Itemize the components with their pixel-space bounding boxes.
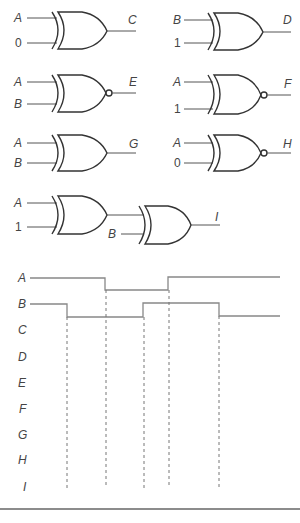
gate-g-output-label: G	[129, 137, 138, 151]
timing-diagram: A B C D E F G H I	[17, 271, 280, 494]
gate-c-output-label: C	[128, 13, 137, 27]
gate-h-output-label: H	[283, 137, 292, 151]
gate-e-xnor: A B E	[13, 75, 138, 112]
waveform-a	[30, 277, 280, 290]
gate-e-output-label: E	[129, 75, 138, 89]
timing-label-a: A	[17, 271, 26, 285]
gate-e-inversion-bubble	[106, 90, 112, 96]
timing-label-e: E	[18, 376, 27, 390]
gate-d-input-1-label: B	[173, 13, 181, 27]
gate-e-input-2-label: B	[14, 97, 22, 111]
gate-h-input-1-label: A	[172, 136, 181, 150]
timing-label-h: H	[18, 453, 27, 467]
gate-e-input-1-label: A	[13, 75, 22, 89]
gate-g-input-1-label: A	[13, 136, 22, 150]
gate-f-output-label: F	[284, 77, 292, 91]
gate-h-input-2-label: 0	[174, 156, 181, 170]
gate-i-output-label: I	[215, 210, 219, 224]
gate-c-input-2-label: 0	[15, 36, 22, 50]
gate-i-input-3-label: B	[108, 227, 116, 241]
gate-c-input-1-label: A	[13, 11, 22, 25]
gate-c-xor: A 0 C	[13, 11, 137, 50]
timing-label-b: B	[18, 297, 26, 311]
gate-f-xnor: A 1 F	[172, 75, 292, 116]
gate-d-output-label: D	[283, 13, 292, 27]
timing-label-d: D	[18, 350, 27, 364]
gate-g-xor: A B G	[13, 135, 138, 171]
timing-label-f: F	[19, 402, 27, 416]
gate-f-input-1-label: A	[172, 75, 181, 89]
gate-i-xor-chain: A 1 B I	[13, 196, 220, 244]
gate-d-xor: B 1 D	[173, 13, 292, 50]
gate-g-input-2-label: B	[14, 156, 22, 170]
waveform-b	[30, 303, 280, 317]
gate-f-inversion-bubble	[261, 92, 267, 98]
gate-i-input-2-label: 1	[15, 220, 22, 234]
gate-i-input-1-label: A	[13, 196, 22, 210]
gate-d-input-2-label: 1	[174, 36, 181, 50]
xor-xnor-exercise-diagram: A 0 C B 1 D A B E A 1	[0, 0, 300, 523]
gate-h-inversion-bubble	[261, 150, 267, 156]
gate-h-xnor: A 0 H	[172, 135, 292, 171]
timing-label-c: C	[18, 323, 27, 337]
timing-label-i: I	[23, 480, 27, 494]
timing-label-g: G	[18, 428, 27, 442]
gate-f-input-2-label: 1	[174, 102, 181, 116]
